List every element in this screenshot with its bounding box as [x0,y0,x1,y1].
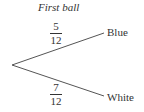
fraction-white-numerator: 7 [53,82,59,93]
fraction-blue-denominator: 12 [51,35,62,46]
fraction-blue: 5 12 [48,21,64,46]
fraction-blue-numerator: 5 [53,21,59,32]
outcome-label-white: White [107,91,134,103]
fraction-white: 7 12 [48,82,64,107]
outcome-label-blue: Blue [107,26,128,38]
tree-title: First ball [38,1,79,13]
fraction-white-denominator: 12 [51,96,62,107]
